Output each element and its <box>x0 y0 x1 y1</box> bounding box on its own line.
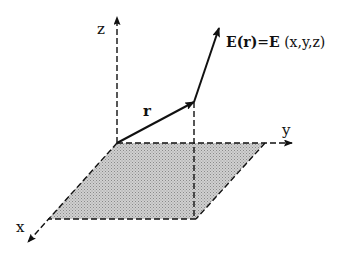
position-vector-label: r <box>143 102 152 120</box>
field-label-e2: E <box>269 34 280 50</box>
field-label-arg: (r) <box>237 34 258 50</box>
field-label-e: E <box>226 34 237 50</box>
field-label-eq: = <box>257 34 269 50</box>
position-vector-r <box>117 102 194 143</box>
field-label-coords: (x,y,z) <box>280 34 326 50</box>
y-axis-label: y <box>281 121 291 139</box>
field-vector-e <box>194 28 219 102</box>
z-axis-label: z <box>97 20 105 38</box>
x-axis-label: x <box>16 218 25 236</box>
xy-plane <box>48 143 265 219</box>
field-diagram: z y x r E(r)=E (x,y,z) <box>0 0 343 257</box>
field-vector-label: E(r)=E (x,y,z) <box>226 34 325 50</box>
